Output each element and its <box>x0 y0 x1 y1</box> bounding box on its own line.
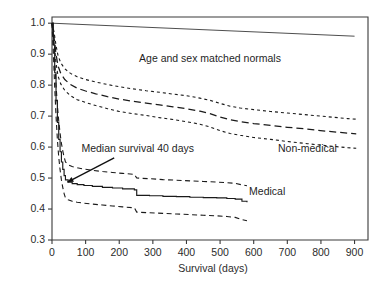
series-curve <box>52 23 356 119</box>
plot-frame <box>52 17 368 240</box>
x-tick-label: 400 <box>178 246 196 258</box>
median-survival-arrow <box>67 158 114 182</box>
x-axis-title: Survival (days) <box>178 262 247 274</box>
plot-border <box>52 17 368 240</box>
y-tick-label: 0.3 <box>30 233 45 245</box>
y-axis: 0.30.40.50.60.70.80.91.0 <box>30 16 52 245</box>
x-tick-label: 700 <box>279 246 297 258</box>
x-tick-label: 0 <box>49 246 55 258</box>
series-curve <box>52 23 356 134</box>
y-tick-label: 0.4 <box>30 202 45 214</box>
y-tick-label: 0.6 <box>30 140 45 152</box>
median-survival-label: Median survival 40 days <box>81 142 194 154</box>
y-tick-label: 0.9 <box>30 47 45 59</box>
nonmedical-label: Non-medical <box>278 142 337 154</box>
x-tick-label: 800 <box>312 246 330 258</box>
x-tick-label: 100 <box>77 246 95 258</box>
medical-label: Medical <box>249 185 285 197</box>
x-tick-label: 600 <box>245 246 263 258</box>
y-tick-label: 1.0 <box>30 16 45 28</box>
y-tick-label: 0.8 <box>30 78 45 90</box>
x-tick-label: 500 <box>211 246 229 258</box>
x-tick-label: 900 <box>346 246 364 258</box>
y-tick-label: 0.5 <box>30 171 45 183</box>
series-curve <box>52 23 355 36</box>
series-curve <box>52 23 247 186</box>
x-tick-label: 300 <box>144 246 162 258</box>
chart-canvas: 0.30.40.50.60.70.80.91.0 010020030040050… <box>0 0 384 286</box>
survival-curve-chart: 0.30.40.50.60.70.80.91.0 010020030040050… <box>0 0 384 286</box>
x-tick-label: 200 <box>110 246 128 258</box>
y-tick-label: 0.7 <box>30 109 45 121</box>
normals-label: Age and sex matched normals <box>139 52 281 64</box>
x-axis: 0100200300400500600700800900 <box>49 240 363 258</box>
